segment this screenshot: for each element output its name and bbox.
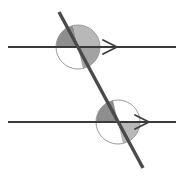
figure-background (0, 0, 184, 178)
geometry-canvas (0, 0, 184, 178)
geometry-figure (0, 0, 184, 178)
